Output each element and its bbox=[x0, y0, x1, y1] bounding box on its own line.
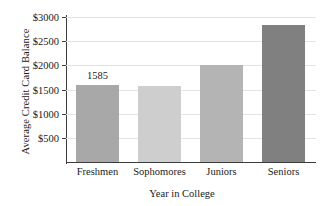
y-tick-mark bbox=[62, 114, 66, 115]
y-tick-mark bbox=[62, 90, 66, 91]
x-axis-title: Year in College bbox=[60, 188, 304, 199]
y-tick-label: $2000 bbox=[33, 60, 59, 71]
gridline bbox=[66, 17, 316, 18]
x-tick-label: Juniors bbox=[188, 166, 255, 177]
y-tick-mark bbox=[62, 65, 66, 66]
bar bbox=[262, 25, 305, 162]
x-axis-line bbox=[66, 162, 316, 163]
bar: 1585 bbox=[76, 85, 119, 162]
x-tick-label: Seniors bbox=[250, 166, 317, 177]
bar bbox=[200, 65, 243, 162]
plot-area: $500$1000$1500$2000$2500$3000 1585 bbox=[66, 17, 316, 162]
bar-value-label: 1585 bbox=[87, 70, 108, 81]
x-tick-label: Sophomores bbox=[126, 166, 193, 177]
y-axis-title: Average Credit Card Balance bbox=[20, 7, 31, 177]
y-tick-mark bbox=[62, 41, 66, 42]
y-tick-label: $3000 bbox=[33, 12, 59, 23]
bar-chart: Average Credit Card Balance $500$1000$15… bbox=[0, 0, 326, 206]
y-tick-label: $500 bbox=[38, 132, 59, 143]
x-tick-label: Freshmen bbox=[64, 166, 131, 177]
y-tick-label: $2500 bbox=[33, 36, 59, 47]
y-tick-mark bbox=[62, 138, 66, 139]
y-tick-label: $1500 bbox=[33, 84, 59, 95]
bar bbox=[138, 86, 181, 162]
y-tick-mark bbox=[62, 17, 66, 18]
y-tick-label: $1000 bbox=[33, 108, 59, 119]
